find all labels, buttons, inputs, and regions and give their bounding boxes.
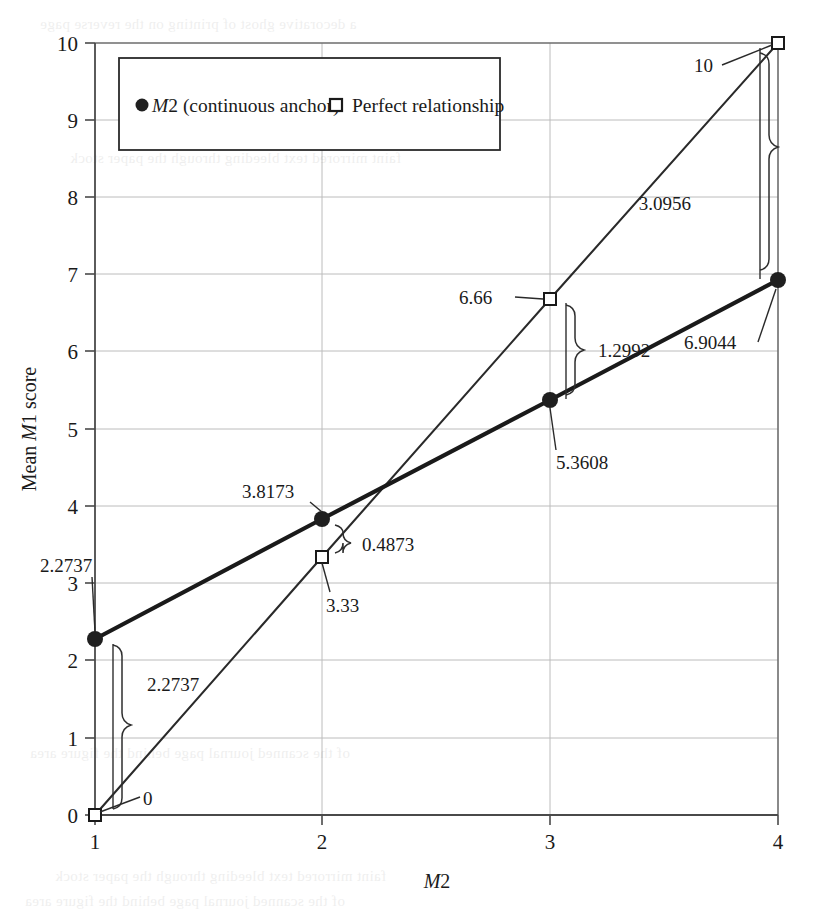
point-label-m2-1: 2.2737 [40, 555, 92, 576]
perfect-point-4 [772, 37, 784, 49]
y-tick-label-10: 10 [57, 32, 78, 56]
x-tick-label-3: 3 [545, 830, 556, 854]
leader-m2-p2 [310, 502, 322, 512]
point-label-m2-2: 3.8173 [242, 481, 294, 502]
leader-perfect-p3 [515, 297, 543, 299]
legend-label-m2-plain: 2 (continuous anchor) [168, 95, 339, 117]
y-tick-label-4: 4 [68, 495, 79, 519]
leader-perfect-p1 [100, 797, 140, 812]
m2-point-3 [542, 392, 558, 408]
point-value-labels: 2.2737 3.8173 5.3608 6.9044 0 3.33 6.66 … [40, 55, 737, 809]
chart-legend[interactable]: M2 (continuous anchor) Perfect relations… [119, 58, 504, 150]
x-axis-title: M2 [423, 870, 451, 892]
legend-label-m2-italic: M [151, 95, 170, 116]
y-axis-ticks [85, 43, 95, 815]
gap-braces [113, 53, 778, 809]
y-tick-label-6: 6 [68, 340, 79, 364]
y-tick-label-1: 1 [68, 727, 79, 751]
y-axis-title-prefix: Mean [18, 441, 40, 492]
point-label-perfect-4: 10 [694, 55, 713, 76]
point-label-m2-3: 5.3608 [556, 452, 608, 473]
x-tick-label-1: 1 [90, 830, 101, 854]
legend-entry-m2[interactable]: M2 (continuous anchor) [136, 95, 340, 117]
perfect-point-3 [544, 293, 556, 305]
gap-label-1: 2.2737 [147, 674, 199, 695]
m2-point-1 [87, 631, 103, 647]
x-axis-title-plain: 2 [440, 870, 450, 892]
gap-labels: 2.2737 0.4873 1.2992 3.0956 [147, 193, 691, 695]
y-tick-label-5: 5 [68, 418, 79, 442]
m2-point-2 [314, 511, 330, 527]
y-tick-label-9: 9 [68, 109, 79, 133]
y-axis-title-suffix: 1 score [18, 367, 40, 424]
y-tick-labels: 10 9 8 7 6 5 4 3 2 1 0 [57, 32, 79, 828]
x-axis-ticks [95, 815, 778, 825]
chart-figure: a decorative ghost of printing on the re… [0, 0, 818, 913]
svg-text:Mean M1 score: Mean M1 score [18, 367, 40, 492]
legend-marker-filled-circle-icon [136, 99, 149, 112]
legend-marker-open-square-icon [330, 99, 342, 111]
chart-svg: 10 9 8 7 6 5 4 3 2 1 0 1 2 3 4 [0, 0, 818, 913]
point-label-m2-4: 6.9044 [684, 332, 737, 353]
point-label-perfect-3: 6.66 [459, 287, 492, 308]
perfect-point-1 [89, 809, 101, 821]
y-axis-title-italic: M [18, 423, 40, 442]
x-tick-label-4: 4 [773, 830, 784, 854]
x-axis-title-italic: M [423, 870, 442, 892]
legend-entry-perfect[interactable]: Perfect relationship [330, 95, 504, 116]
y-tick-label-7: 7 [68, 263, 79, 287]
y-tick-label-0: 0 [68, 804, 79, 828]
point-label-perfect-1: 0 [143, 788, 153, 809]
legend-label-perfect: Perfect relationship [352, 95, 504, 116]
x-tick-labels: 1 2 3 4 [90, 830, 784, 854]
series-m2-continuous-anchor [87, 272, 786, 647]
perfect-point-2 [316, 551, 328, 563]
leader-m2-p4 [758, 289, 776, 342]
y-tick-label-2: 2 [68, 649, 79, 673]
m2-point-4 [770, 272, 786, 288]
y-tick-label-8: 8 [68, 186, 79, 210]
svg-text:M2: M2 [423, 870, 451, 892]
gap-label-4: 3.0956 [639, 193, 691, 214]
m2-anchor-line [95, 280, 778, 639]
point-label-perfect-2: 3.33 [326, 595, 359, 616]
gap-brace-4 [760, 53, 778, 270]
svg-text:M2 (continuous anchor): M2 (continuous anchor) [151, 95, 339, 117]
gap-brace-1 [113, 645, 131, 809]
leader-perfect-p2 [322, 563, 330, 592]
gap-label-3: 1.2992 [598, 340, 650, 361]
y-axis-title: Mean M1 score [18, 367, 40, 492]
x-tick-label-2: 2 [317, 830, 328, 854]
gap-label-2: 0.4873 [362, 534, 414, 555]
